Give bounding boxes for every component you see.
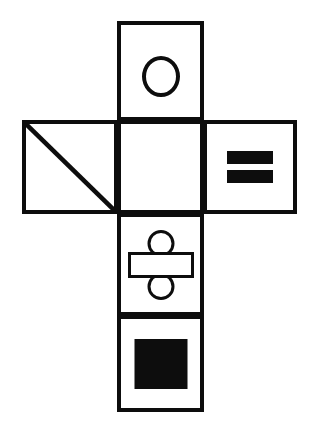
equals-sign-icon <box>227 151 273 183</box>
equals-bar-lower <box>227 170 273 183</box>
equals-bar-upper <box>227 151 273 164</box>
division-sign-icon <box>128 231 194 299</box>
cube-face-right <box>203 120 297 214</box>
cube-face-center <box>117 120 204 214</box>
cube-face-bottom <box>117 315 204 412</box>
cube-face-lower <box>117 213 204 316</box>
division-rule-bar <box>128 252 194 278</box>
cube-face-left <box>22 120 118 214</box>
cube-net-diagram <box>0 0 317 437</box>
filled-square-icon <box>134 339 187 389</box>
cube-face-top <box>117 21 204 121</box>
diagonal-line-icon <box>26 124 114 210</box>
hollow-circle-icon <box>142 56 180 97</box>
